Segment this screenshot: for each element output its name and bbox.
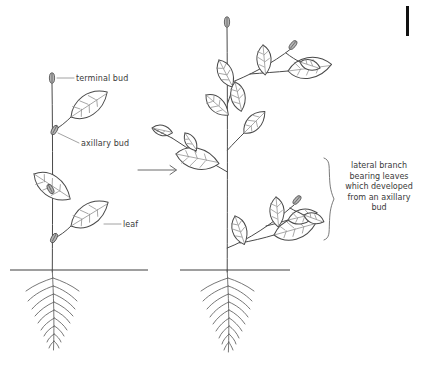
leader-axillary-bud	[58, 133, 79, 143]
right-plant-roots	[201, 270, 254, 352]
right-plant	[151, 17, 333, 352]
branch-terminal-bud	[288, 39, 299, 50]
right-plant-lateral-branch-left	[151, 123, 228, 172]
left-plant	[10, 73, 148, 350]
right-plant-lateral-branch-top	[212, 39, 333, 90]
plant-growth-diagram: terminal bud axillary bud leaf lateral b…	[0, 0, 422, 380]
axillary-bud	[50, 124, 59, 136]
label-axillary-bud: axillary bud	[81, 139, 129, 150]
lateral-branch-brace	[324, 158, 334, 240]
axillary-bud-3	[49, 232, 58, 244]
caption-lateral-branch: lateral branch bearing leaves which deve…	[340, 161, 418, 214]
label-leaf: leaf	[123, 220, 138, 231]
branch-terminal-bud-lower	[292, 194, 303, 205]
left-plant-leaf-lower	[52, 194, 113, 239]
left-plant-leaf-upper	[53, 84, 113, 131]
right-plant-lateral-branch-lower	[227, 194, 325, 248]
terminal-bud-right	[224, 17, 229, 27]
terminal-bud	[49, 73, 54, 83]
corner-mark	[406, 6, 409, 36]
transformation-arrow	[138, 166, 177, 175]
right-plant-stem-leaf-upper-left	[201, 90, 233, 120]
right-plant-stem-leaf-middle	[228, 107, 271, 150]
left-plant-roots	[26, 270, 79, 350]
label-terminal-bud: terminal bud	[76, 74, 128, 85]
